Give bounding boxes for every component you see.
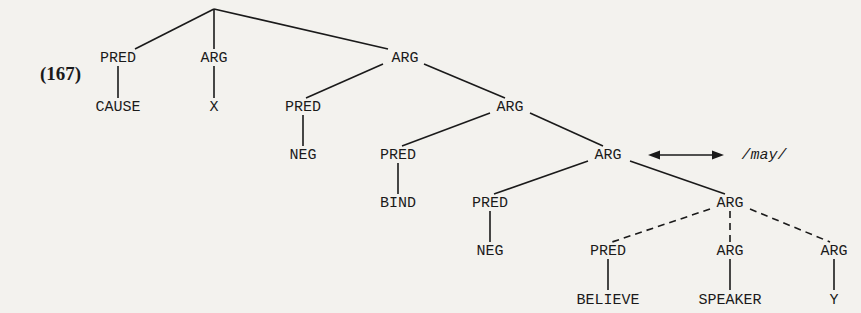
node-arg-2: ARG [496,100,523,115]
node-arg-3: ARG [594,148,621,163]
node-y: Y [829,293,838,308]
node-arg-1: ARG [391,51,418,66]
node-bind: BIND [380,196,416,211]
node-neg-2: NEG [476,244,503,259]
arrow-right-head-icon [712,151,724,160]
node-arg-y: ARG [820,244,847,259]
node-speaker: SPEAKER [698,293,761,308]
node-arg-4: ARG [716,196,743,211]
lexical-item-may: /may/ [741,148,786,163]
node-pred-bind: PRED [380,148,416,163]
node-arg-speaker: ARG [716,244,743,259]
node-pred-believe: PRED [590,244,626,259]
example-number: (167) [40,63,81,85]
node-pred-neg-1: PRED [285,100,321,115]
arrow-left-head-icon [648,151,660,160]
node-pred-neg-2: PRED [472,196,508,211]
node-cause: CAUSE [95,100,140,115]
node-arg-x: ARG [200,51,227,66]
node-neg-1: NEG [289,148,316,163]
node-x: X [209,100,218,115]
tree-edges [0,0,861,313]
node-pred-cause: PRED [100,51,136,66]
node-believe: BELIEVE [576,293,639,308]
semantic-tree-diagram: (167) PRED CAUSE ARG X ARG PRED NEG ARG … [0,0,861,313]
